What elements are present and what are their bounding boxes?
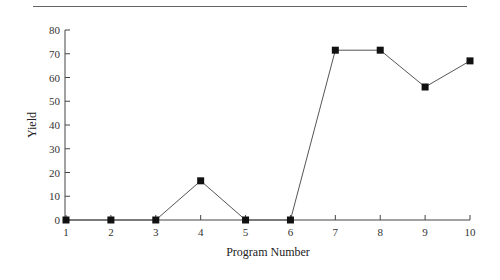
data-point-marker — [152, 217, 159, 224]
data-point-marker — [197, 177, 204, 184]
y-tick-label: 0 — [55, 214, 61, 226]
y-tick-label: 50 — [49, 95, 61, 107]
y-tick-label: 10 — [49, 190, 61, 202]
data-series — [63, 47, 474, 224]
x-tick-label: 3 — [153, 226, 159, 238]
data-point-marker — [422, 84, 429, 91]
x-tick-label: 5 — [243, 226, 249, 238]
data-point-marker — [242, 217, 249, 224]
x-tick-label: 9 — [422, 226, 428, 238]
line-chart: 01020304050607080 12345678910 Yield Prog… — [0, 0, 500, 280]
data-point-marker — [287, 217, 294, 224]
y-tick-label: 60 — [49, 72, 61, 84]
y-axis: 01020304050607080 — [49, 24, 70, 226]
data-point-marker — [377, 47, 384, 54]
x-axis: 12345678910 — [63, 215, 476, 238]
y-tick-label: 70 — [49, 48, 61, 60]
data-point-marker — [63, 217, 70, 224]
y-tick-label: 20 — [49, 167, 61, 179]
x-tick-label: 1 — [63, 226, 69, 238]
data-point-marker — [107, 217, 114, 224]
x-tick-label: 8 — [377, 226, 383, 238]
data-point-marker — [332, 47, 339, 54]
data-point-marker — [467, 57, 474, 64]
x-tick-label: 6 — [288, 226, 294, 238]
x-axis-title: Program Number — [226, 245, 310, 259]
y-tick-label: 80 — [49, 24, 61, 36]
series-line — [66, 50, 470, 220]
y-tick-label: 40 — [49, 119, 61, 131]
x-tick-label: 10 — [465, 226, 477, 238]
y-axis-title: Yield — [25, 112, 39, 138]
x-tick-label: 4 — [198, 226, 204, 238]
x-tick-label: 7 — [333, 226, 339, 238]
x-tick-label: 2 — [108, 226, 114, 238]
y-tick-label: 30 — [49, 143, 61, 155]
